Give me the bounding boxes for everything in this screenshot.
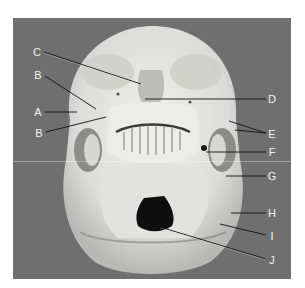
label-h: H	[268, 208, 276, 219]
leader-c	[44, 52, 141, 84]
label-c: C	[33, 47, 41, 58]
leader-b-lower	[46, 117, 106, 132]
label-f: F	[269, 147, 276, 158]
scan-artifact-line	[13, 161, 305, 162]
label-a: A	[34, 107, 41, 118]
label-e: E	[268, 129, 275, 140]
leader-i	[220, 224, 266, 235]
label-b-lower: B	[35, 128, 42, 139]
label-g: G	[268, 171, 277, 182]
label-b-upper: B	[34, 70, 41, 81]
label-i: I	[270, 231, 273, 242]
leader-j	[160, 227, 266, 259]
leader-b-upper	[45, 76, 96, 109]
skull-photo	[13, 18, 291, 279]
label-j: J	[269, 255, 275, 266]
label-d: D	[268, 94, 276, 105]
leader-lines	[13, 18, 291, 279]
